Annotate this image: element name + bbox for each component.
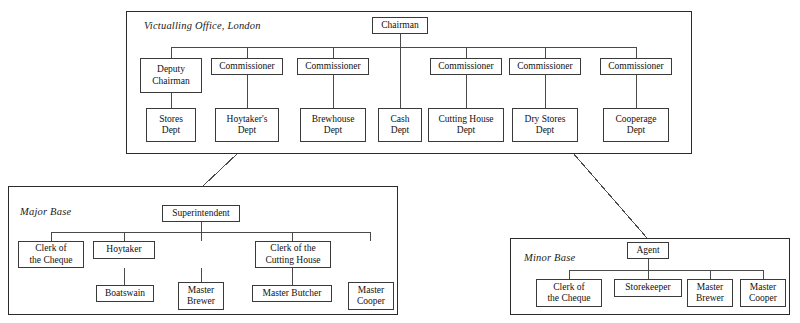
node-minor-master-cooper[interactable]: Master Cooper	[740, 279, 786, 307]
node-minor-master-brewer[interactable]: Master Brewer	[687, 279, 733, 307]
node-master-butcher[interactable]: Master Butcher	[252, 285, 332, 302]
org-chart-figure: Victualling Office, London Chairman Depu…	[0, 0, 800, 323]
panel-head-office-title: Victualling Office, London	[144, 20, 261, 31]
node-deputy-chairman[interactable]: Deputy Chairman	[140, 58, 202, 93]
node-dry-stores-dept[interactable]: Dry Stores Dept	[512, 108, 578, 142]
panel-minor-base-title: Minor Base	[524, 252, 575, 263]
node-commissioner-3[interactable]: Commissioner	[430, 58, 502, 75]
panel-major-base-title: Major Base	[20, 206, 71, 217]
node-major-clerk-of-the-cheque[interactable]: Clerk of the Cheque	[18, 241, 84, 268]
node-cash-dept[interactable]: Cash Dept	[378, 108, 422, 142]
node-major-master-cooper[interactable]: Master Cooper	[348, 282, 394, 310]
node-commissioner-2[interactable]: Commissioner	[297, 58, 369, 75]
node-hoytakers-dept[interactable]: Hoytaker's Dept	[215, 108, 279, 142]
node-stores-dept[interactable]: Stores Dept	[146, 108, 196, 142]
node-major-hoytaker[interactable]: Hoytaker	[93, 241, 155, 259]
node-cutting-house-dept[interactable]: Cutting House Dept	[428, 108, 504, 142]
node-commissioner-4[interactable]: Commissioner	[509, 58, 581, 75]
node-commissioner-1[interactable]: Commissioner	[211, 58, 283, 75]
node-agent[interactable]: Agent	[627, 242, 669, 259]
node-clerk-of-the-cutting-house[interactable]: Clerk of the Cutting House	[255, 241, 331, 268]
node-cooperage-dept[interactable]: Cooperage Dept	[603, 108, 669, 142]
node-major-master-brewer[interactable]: Master Brewer	[178, 282, 224, 310]
node-chairman[interactable]: Chairman	[372, 17, 428, 34]
node-boatswain[interactable]: Boatswain	[96, 285, 154, 302]
node-superintendent[interactable]: Superintendent	[162, 205, 240, 222]
node-commissioner-5[interactable]: Commissioner	[600, 58, 672, 75]
node-minor-clerk-of-the-cheque[interactable]: Clerk of the Cheque	[536, 279, 602, 307]
node-brewhouse-dept[interactable]: Brewhouse Dept	[300, 108, 366, 142]
node-storekeeper[interactable]: Storekeeper	[614, 279, 682, 297]
